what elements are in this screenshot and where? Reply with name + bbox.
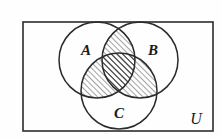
region-a-and-b-and-c	[0, 0, 221, 139]
set-label-c: C	[114, 105, 125, 121]
set-label-a: A	[80, 42, 91, 58]
set-label-b: B	[147, 42, 158, 58]
universal-set-label: U	[190, 110, 203, 127]
venn-diagram-figure: A B C U	[0, 0, 221, 139]
venn-diagram-canvas: A B C U	[0, 0, 221, 139]
